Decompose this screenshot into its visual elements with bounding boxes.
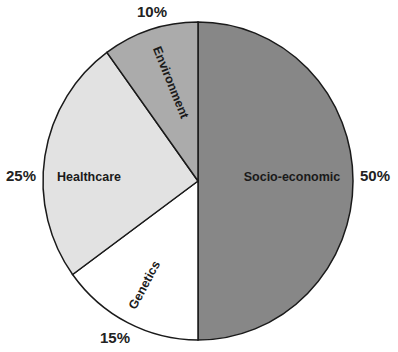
pct-genetics: 15%	[100, 329, 130, 346]
pie-chart: Socio-economic Healthcare Environment Ge…	[0, 0, 398, 352]
pct-environment: 10%	[137, 3, 167, 20]
pct-socio-economic: 50%	[360, 167, 390, 184]
label-socio-economic: Socio-economic	[244, 170, 341, 184]
pct-healthcare: 25%	[6, 167, 36, 184]
label-healthcare: Healthcare	[57, 170, 121, 184]
